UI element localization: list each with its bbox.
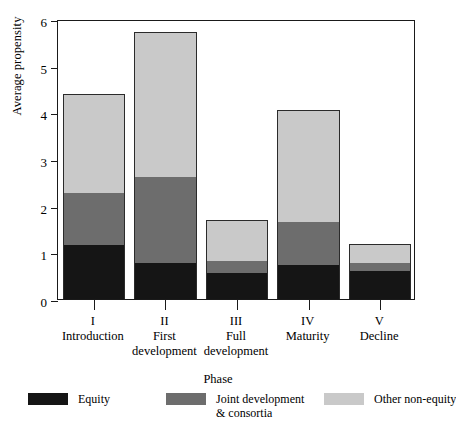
legend-label-2: Joint development& consortia <box>216 392 304 420</box>
bar-segment-III-1 <box>206 273 269 299</box>
bar-segment-I-3 <box>63 94 126 193</box>
bar-segment-IV-2 <box>277 222 340 265</box>
x-tick-V <box>380 299 381 310</box>
plot-area: 0123456 <box>57 20 415 300</box>
y-tick-label-5: 5 <box>41 62 48 75</box>
x-axis-label-I: IIntroduction <box>62 314 124 344</box>
x-axis-label-name-I: Introduction <box>62 329 124 344</box>
legend-label-1: Equity <box>78 392 110 406</box>
x-tick-IV <box>309 299 310 310</box>
bar-stack-I <box>63 94 126 299</box>
x-axis-label-name-III: Full <box>204 329 269 344</box>
bar-stack-V <box>349 244 412 299</box>
x-axis-label-name2-II: development <box>132 344 197 359</box>
x-axis-label-name-IV: Maturity <box>286 329 330 344</box>
x-axis-labels: IIntroductionIIFirstdevelopmentIIIFullde… <box>57 314 415 374</box>
x-axis-label-IV: IVMaturity <box>286 314 330 344</box>
bar-segment-IV-1 <box>277 265 340 299</box>
bar-segment-II-1 <box>134 263 197 299</box>
y-tick-4: 4 <box>51 114 58 115</box>
legend-label-line2-2: & consortia <box>216 406 304 420</box>
bar-stack-III <box>206 220 269 299</box>
x-axis-label-II: IIFirstdevelopment <box>132 314 197 359</box>
x-axis-label-name-II: First <box>132 329 197 344</box>
chart-legend: EquityJoint development& consortiaOther … <box>28 392 428 426</box>
bar-segment-V-1 <box>349 271 412 299</box>
bar-segment-V-3 <box>349 244 412 263</box>
y-tick-0: 0 <box>51 301 58 302</box>
x-axis-label-name-V: Decline <box>360 329 399 344</box>
bar-segment-III-2 <box>206 261 269 273</box>
y-tick-1: 1 <box>51 254 58 255</box>
legend-item-2: Joint development& consortia <box>166 392 304 420</box>
x-axis-label-III: IIIFulldevelopment <box>204 314 269 359</box>
y-axis-title: Average propensity <box>10 0 30 136</box>
y-tick-label-6: 6 <box>41 16 48 29</box>
x-axis-label-V: VDecline <box>360 314 399 344</box>
bar-segment-I-1 <box>63 245 126 299</box>
x-tick-II <box>165 299 166 310</box>
bar-segment-II-2 <box>134 177 197 263</box>
x-axis-label-roman-II: II <box>132 314 197 329</box>
y-tick-label-4: 4 <box>41 109 48 122</box>
y-tick-3: 3 <box>51 161 58 162</box>
legend-label-3: Other non-equity <box>374 392 456 406</box>
bar-segment-I-2 <box>63 193 126 246</box>
bar-segment-II-3 <box>134 32 197 177</box>
bar-segment-V-2 <box>349 263 412 271</box>
x-axis-label-name2-III: development <box>204 344 269 359</box>
legend-item-1: Equity <box>28 392 110 406</box>
bar-stack-II <box>134 32 197 299</box>
x-axis-label-roman-V: V <box>360 314 399 329</box>
bar-stack-IV <box>277 110 340 299</box>
x-tick-III <box>237 299 238 310</box>
x-axis-label-roman-I: I <box>62 314 124 329</box>
y-tick-label-0: 0 <box>41 296 48 309</box>
y-tick-6: 6 <box>51 21 58 22</box>
y-tick-label-3: 3 <box>41 156 48 169</box>
legend-item-3: Other non-equity <box>324 392 456 406</box>
x-axis-title: Phase <box>0 372 436 387</box>
legend-label-line1-2: Joint development <box>216 392 304 406</box>
y-tick-5: 5 <box>51 68 58 69</box>
x-tick-I <box>94 299 95 310</box>
y-tick-2: 2 <box>51 208 58 209</box>
y-tick-label-2: 2 <box>41 202 48 215</box>
legend-swatch-1 <box>28 393 68 405</box>
legend-swatch-2 <box>166 393 206 405</box>
bars-layer <box>58 21 414 299</box>
x-axis-label-roman-IV: IV <box>286 314 330 329</box>
x-axis-label-roman-III: III <box>204 314 269 329</box>
legend-swatch-3 <box>324 393 364 405</box>
legend-label-line1-1: Equity <box>78 392 110 406</box>
legend-label-line1-3: Other non-equity <box>374 392 456 406</box>
y-tick-label-1: 1 <box>41 249 48 262</box>
bar-segment-III-3 <box>206 220 269 261</box>
bar-segment-IV-3 <box>277 110 340 221</box>
